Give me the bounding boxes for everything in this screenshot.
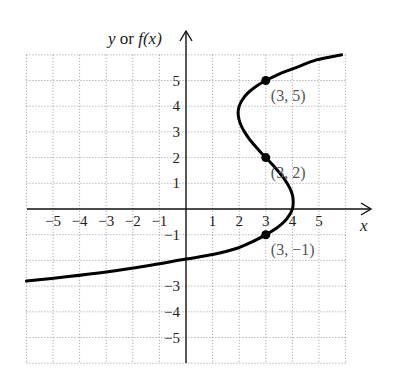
y-tick-label: 1 — [173, 175, 181, 191]
x-axis-label: x — [359, 216, 368, 235]
x-tick-label: 5 — [315, 213, 323, 229]
x-tick-label: 2 — [235, 213, 243, 229]
y-axis — [180, 31, 192, 363]
y-tick-label: 5 — [173, 73, 181, 89]
x-tick-label: −2 — [125, 213, 141, 229]
x-tick-label: −3 — [98, 213, 114, 229]
x-tick-label: −5 — [45, 213, 61, 229]
y-tick-label: −3 — [164, 278, 180, 294]
y-tick-label: −4 — [164, 304, 180, 320]
x-tick-label: 3 — [262, 213, 270, 229]
chart: −5−4−3−2−112345 54321−1−3−4−5 (3, 5)(3, … — [0, 0, 394, 370]
y-tick-label: 2 — [173, 150, 181, 166]
y-tick-label: −5 — [164, 330, 180, 346]
point-label: (3, 5) — [271, 87, 306, 105]
data-point-marker — [261, 76, 270, 85]
y-tick-label: 4 — [173, 98, 181, 114]
data-point-marker — [261, 230, 270, 239]
point-label: (3, 2) — [271, 164, 306, 182]
data-point-marker — [261, 153, 270, 162]
y-tick-label: −1 — [164, 227, 180, 243]
point-label: (3, −1) — [271, 241, 315, 259]
x-tick-label: −4 — [72, 213, 88, 229]
y-axis-label: y or f(x) — [106, 29, 162, 48]
x-tick-label: 1 — [209, 213, 217, 229]
y-tick-label: 3 — [173, 124, 181, 140]
